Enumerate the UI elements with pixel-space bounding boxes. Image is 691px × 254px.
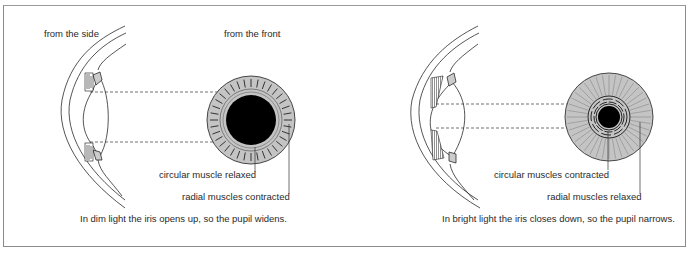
- callout-circular-muscles-bright: circular muscles contracted: [494, 170, 609, 180]
- projection-lines-bright: [436, 104, 587, 128]
- eye-side-view-bright: [411, 26, 480, 208]
- label-from-the-front: from the front: [224, 29, 281, 39]
- iris-cross-section-dim: [85, 73, 93, 161]
- eye-side-view-dim: [61, 26, 126, 208]
- label-from-the-side: from the side: [44, 29, 99, 39]
- iris-cross-section-bright: [431, 76, 444, 160]
- callout-circular-muscle-dim: circular muscle relaxed: [159, 170, 256, 180]
- caption-dim-light: In dim light the iris opens up, so the p…: [80, 214, 287, 224]
- iris-front-view-dim: [207, 76, 295, 164]
- callout-radial-muscles-dim: radial muscles contracted: [182, 192, 290, 202]
- callout-radial-muscles-bright: radial muscles relaxed: [547, 192, 642, 202]
- caption-bright-light: In bright light the iris closes down, so…: [442, 214, 675, 224]
